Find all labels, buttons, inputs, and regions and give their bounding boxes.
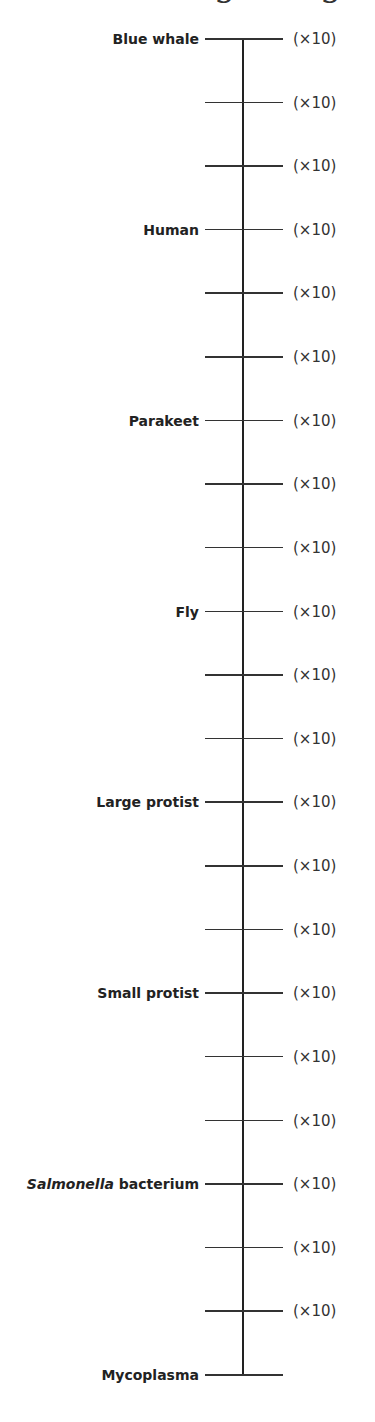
factor-label: (×10) — [293, 856, 336, 876]
tick-mark — [205, 929, 283, 931]
tick-mark — [205, 1247, 283, 1249]
organism-label: Mycoplasma — [101, 1366, 199, 1384]
organism-label-text: Blue whale — [113, 31, 199, 47]
tick-mark — [205, 483, 283, 485]
organism-label: Small protist — [97, 984, 199, 1002]
tick-mark — [205, 38, 283, 40]
factor-label: (×10) — [293, 729, 336, 749]
tick-mark — [205, 611, 283, 613]
title-glyph: g — [320, 0, 342, 4]
tick-mark — [205, 356, 283, 358]
tick-mark — [205, 738, 283, 740]
factor-label: (×10) — [293, 538, 336, 558]
title-fragment: g g — [0, 0, 375, 6]
factor-label: (×10) — [293, 1047, 336, 1067]
organism-label: Large protist — [96, 793, 199, 811]
factor-label: (×10) — [293, 29, 336, 49]
tick-mark — [205, 229, 283, 231]
factor-label: (×10) — [293, 1301, 336, 1321]
tick-mark — [205, 1310, 283, 1312]
organism-label: Human — [143, 221, 199, 239]
factor-label: (×10) — [293, 792, 336, 812]
tick-mark — [205, 865, 283, 867]
factor-label: (×10) — [293, 156, 336, 176]
tick-mark — [205, 801, 283, 803]
organism-label-text: Small protist — [97, 985, 199, 1001]
organism-label-text: Human — [143, 222, 199, 238]
organism-label-text: Parakeet — [129, 413, 199, 429]
factor-label: (×10) — [293, 283, 336, 303]
factor-label: (×10) — [293, 1111, 336, 1131]
organism-label-text: Mycoplasma — [101, 1367, 199, 1383]
factor-label: (×10) — [293, 1174, 336, 1194]
title-glyph: g — [214, 0, 236, 4]
factor-label: (×10) — [293, 983, 336, 1003]
organism-label-text: Fly — [176, 604, 200, 620]
tick-mark — [205, 102, 283, 104]
factor-label: (×10) — [293, 474, 336, 494]
organism-label: Fly — [176, 603, 200, 621]
tick-mark — [205, 1183, 283, 1185]
organism-label: Salmonella bacterium — [27, 1175, 199, 1193]
factor-label: (×10) — [293, 411, 336, 431]
tick-mark — [205, 292, 283, 294]
factor-label: (×10) — [293, 347, 336, 367]
factor-label: (×10) — [293, 665, 336, 685]
factor-label: (×10) — [293, 920, 336, 940]
tick-mark — [205, 1056, 283, 1058]
organism-label-italic: Salmonella — [27, 1176, 114, 1192]
tick-mark — [205, 674, 283, 676]
tick-mark — [205, 547, 283, 549]
factor-label: (×10) — [293, 602, 336, 622]
organism-label-text: Large protist — [96, 794, 199, 810]
organism-label-text: bacterium — [114, 1176, 199, 1192]
organism-label: Parakeet — [129, 412, 199, 430]
tick-mark — [205, 992, 283, 994]
factor-label: (×10) — [293, 93, 336, 113]
tick-mark — [205, 1374, 283, 1376]
factor-label: (×10) — [293, 1238, 336, 1258]
tick-mark — [205, 1120, 283, 1122]
scale-axis — [242, 39, 244, 1375]
tick-mark — [205, 165, 283, 167]
factor-label: (×10) — [293, 220, 336, 240]
organism-label: Blue whale — [113, 30, 199, 48]
tick-mark — [205, 420, 283, 422]
